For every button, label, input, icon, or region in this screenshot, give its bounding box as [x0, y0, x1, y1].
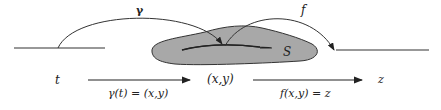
- f-equation: f(x,y) = z: [280, 88, 331, 99]
- gamma-label: γ: [136, 5, 143, 16]
- xy-label: (x,y): [207, 73, 234, 85]
- gamma-equation: γ(t) = (x,y): [108, 88, 168, 99]
- diagram-canvas: [0, 0, 441, 110]
- z-label: z: [378, 74, 384, 85]
- region-s-label: S: [283, 46, 291, 58]
- t-label: t: [55, 74, 60, 86]
- f-label: f: [301, 4, 305, 16]
